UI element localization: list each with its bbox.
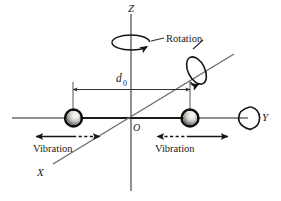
origin-label: O [133, 122, 140, 133]
right-mass [182, 110, 199, 127]
y-axis-label: Y [262, 111, 270, 123]
z-axis: Z [128, 2, 135, 191]
rotation-annotation: Rotation [151, 33, 203, 49]
x-axis-line [53, 54, 234, 164]
x-axis-label: X [36, 166, 45, 178]
rotation-leader-to-z [151, 38, 164, 41]
vibration-left: Vibration [33, 137, 100, 155]
vibration-left-label: Vibration [33, 143, 73, 154]
d0-label: d [116, 72, 122, 84]
figure-canvas: Z Y X O [0, 0, 281, 201]
z-axis-label: Z [128, 2, 135, 14]
y-axis: Y [12, 111, 270, 123]
vibration-right: Vibration [155, 137, 228, 155]
rotation-label: Rotation [166, 33, 203, 44]
gyroscope-schematic: Z Y X O [0, 0, 281, 201]
vibration-right-label: Vibration [155, 143, 195, 154]
d0-subscript: 0 [123, 79, 127, 88]
left-mass [65, 110, 82, 127]
